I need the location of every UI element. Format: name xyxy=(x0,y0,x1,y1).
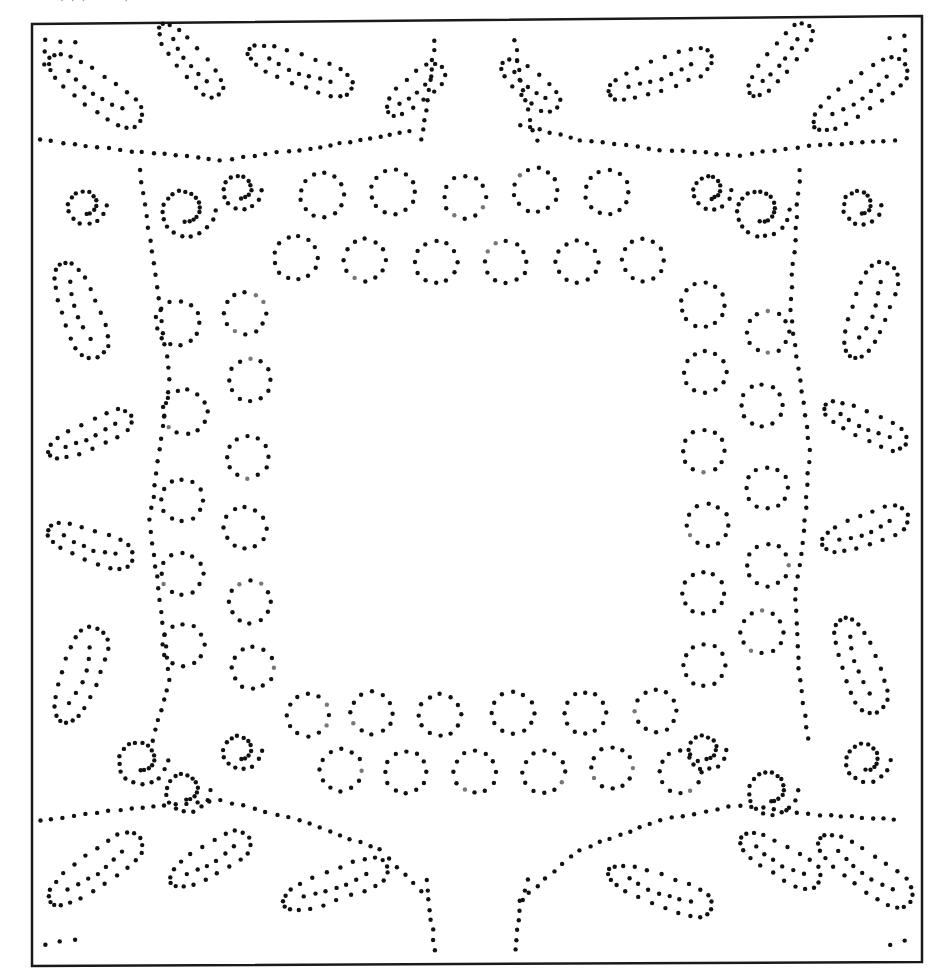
frame-outline xyxy=(32,16,922,966)
dotted-floral-pattern xyxy=(38,21,915,952)
picture-frame-border xyxy=(32,16,922,966)
dotted-pattern-artwork xyxy=(0,0,941,978)
